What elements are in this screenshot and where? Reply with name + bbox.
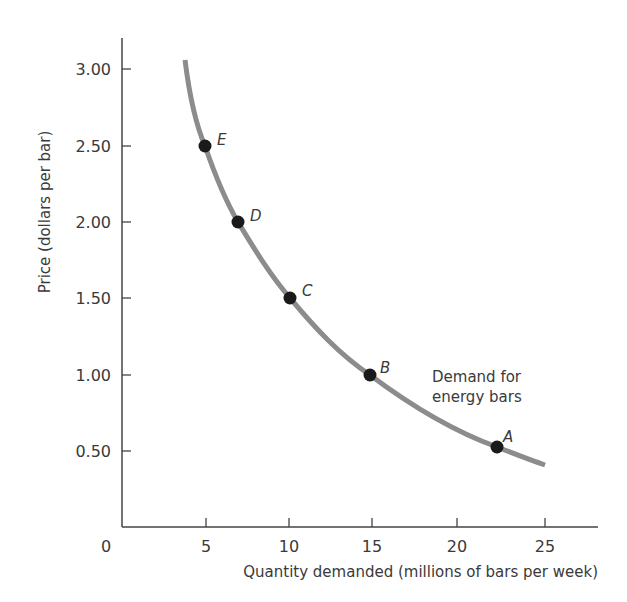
point-label-d: D [250, 207, 262, 225]
point-label-c: C [302, 282, 313, 300]
curve-annotation-line2: energy bars [432, 388, 522, 406]
point-c [284, 292, 297, 305]
demand-chart: 3.00 2.50 2.00 1.50 1.00 0.50 0 5 10 15 … [0, 0, 627, 602]
x-tick-label: 15 [362, 537, 382, 556]
y-tick-label: 1.50 [75, 289, 111, 308]
data-points [199, 140, 504, 454]
y-tick-label: 2.50 [75, 137, 111, 156]
x-tick-label: 0 [101, 537, 111, 556]
y-tick-label: 0.50 [75, 442, 111, 461]
x-ticks [206, 518, 545, 527]
y-axis-title: Price (dollars per bar) [36, 131, 54, 294]
point-label-b: B [380, 359, 390, 377]
y-tick-label: 3.00 [75, 60, 111, 79]
x-tick-labels: 0 5 10 15 20 25 [101, 537, 555, 556]
curve-annotation-line1: Demand for [432, 368, 522, 386]
y-tick-labels: 3.00 2.50 2.00 1.50 1.00 0.50 [75, 60, 111, 461]
point-label-a: A [502, 428, 513, 446]
point-e [199, 140, 212, 153]
y-tick-label: 1.00 [75, 366, 111, 385]
x-tick-label: 20 [447, 537, 467, 556]
point-b [364, 369, 377, 382]
y-tick-label: 2.00 [75, 213, 111, 232]
x-axis-title: Quantity demanded (millions of bars per … [243, 563, 598, 581]
x-tick-label: 10 [279, 537, 299, 556]
x-tick-label: 5 [201, 537, 211, 556]
point-label-e: E [217, 131, 227, 149]
y-ticks [122, 69, 131, 451]
point-a [491, 441, 504, 454]
x-tick-label: 25 [535, 537, 555, 556]
point-d [232, 216, 245, 229]
